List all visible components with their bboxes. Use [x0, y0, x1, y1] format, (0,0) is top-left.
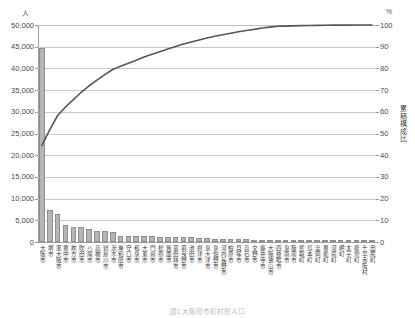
x-axis-label: 池田市 [188, 245, 194, 263]
x-axis-label: 東大阪市 [55, 245, 61, 269]
plot-area [38, 25, 376, 242]
x-axis-label: 吹田市 [78, 245, 84, 263]
x-axis-label: 阪南市 [290, 245, 296, 263]
right-axis-tick-mark [376, 242, 379, 243]
right-axis-tick-mark [376, 47, 379, 48]
x-axis-label: 松原市 [157, 245, 163, 263]
gridline [38, 242, 376, 243]
right-axis-tick-label: 100 [380, 21, 406, 30]
left-axis-tick-label: 45,000 [0, 42, 34, 51]
left-axis-tick-mark [35, 47, 38, 48]
left-axis-tick-label: 5,000 [0, 216, 34, 225]
x-axis-label: 高石市 [243, 245, 249, 263]
right-axis-tick-mark [376, 177, 379, 178]
left-axis-tick-label: 50,000 [0, 21, 34, 30]
x-axis-label: 枚方市 [70, 245, 76, 263]
left-axis-tick-mark [35, 242, 38, 243]
cumulative-line-series [38, 25, 376, 242]
x-axis-label: 忠岡町 [314, 245, 320, 263]
left-axis-tick-mark [35, 134, 38, 135]
x-axis-label: 摂津市 [196, 245, 202, 263]
x-axis-label: 泉大津市 [204, 245, 210, 269]
x-axis-label: 和泉市 [133, 245, 139, 263]
left-axis-tick-label: 40,000 [0, 64, 34, 73]
right-axis-tick-mark [376, 90, 379, 91]
right-axis-tick-label: 10 [380, 216, 406, 225]
x-axis-label: 貝塚市 [235, 245, 241, 263]
x-axis-label: 太子町 [345, 245, 351, 263]
left-axis-tick-mark [35, 199, 38, 200]
x-axis-label: 交野市 [251, 245, 257, 263]
right-axis-tick-label: 70 [380, 86, 406, 95]
x-axis-label: 河内長野市 [220, 245, 226, 275]
right-axis-tick-mark [376, 68, 379, 69]
x-axis-label: 堺市 [47, 245, 53, 257]
left-axis-tick-label: 35,000 [0, 86, 34, 95]
pareto-chart: 人 % 50,00045,00040,00035,00030,00025,000… [0, 0, 415, 318]
left-axis-tick-label: 20,000 [0, 151, 34, 160]
x-axis-label: 島本町 [306, 245, 312, 263]
left-axis-tick-mark [35, 90, 38, 91]
x-axis-label: 羽曳野市 [180, 245, 186, 269]
right-axis-tick-mark [376, 199, 379, 200]
right-axis-tick-label: 0 [380, 238, 406, 247]
right-axis-tick-mark [376, 155, 379, 156]
figure-caption: 図1 大阪府市町村別人口 [0, 306, 415, 316]
left-axis-tick-mark [35, 25, 38, 26]
x-axis-label: 大東市 [141, 245, 147, 263]
x-axis-label: 富田林市 [173, 245, 179, 269]
left-axis-tick-label: 25,000 [0, 129, 34, 138]
right-axis-tick-mark [376, 112, 379, 113]
x-axis-label: 高槻市 [94, 245, 100, 263]
x-axis-label: 四條畷市 [275, 245, 281, 269]
x-axis-label: 柏原市 [228, 245, 234, 263]
left-axis-tick-mark [35, 155, 38, 156]
x-axis-label: 藤井寺市 [259, 245, 265, 269]
x-axis-label: 千早赤阪村 [361, 245, 367, 275]
x-axis-label: 豊能町 [322, 245, 328, 263]
left-axis-tick-mark [35, 220, 38, 221]
x-axis-label: 豊中市 [63, 245, 69, 263]
right-axis-title: 累積構成比 [398, 105, 408, 143]
left-axis-tick-label: 0 [0, 238, 34, 247]
right-axis-tick-label: 40 [380, 151, 406, 160]
right-axis-tick-label: 90 [380, 42, 406, 51]
left-axis-tick-label: 30,000 [0, 107, 34, 116]
x-axis-label: 能勢町 [353, 245, 359, 263]
x-axis-label: 八尾市 [86, 245, 92, 263]
x-axis-label: 守口市 [125, 245, 131, 263]
x-axis-label: 泉佐野市 [212, 245, 218, 269]
x-axis-label: 門真市 [149, 245, 155, 263]
x-axis-label: 箕面市 [165, 245, 171, 263]
x-axis-label: 岸和田市 [118, 245, 124, 269]
right-axis-tick-mark [376, 25, 379, 26]
x-axis-label: 泉南市 [283, 245, 289, 263]
left-axis-tick-mark [35, 68, 38, 69]
left-axis-unit: 人 [22, 8, 29, 18]
left-axis-tick-label: 15,000 [0, 172, 34, 181]
right-axis-tick-label: 20 [380, 194, 406, 203]
x-axis-label: 河南町 [330, 245, 336, 263]
x-axis-label: 岬町 [338, 245, 344, 257]
left-axis-tick-mark [35, 112, 38, 113]
right-axis-tick-mark [376, 134, 379, 135]
x-axis-label: 茨木市 [110, 245, 116, 263]
right-axis-tick-mark [376, 220, 379, 221]
x-axis-label: 大阪狭山市 [267, 245, 273, 275]
left-axis-tick-mark [35, 177, 38, 178]
x-axis-label: 寝屋川市 [102, 245, 108, 269]
left-axis-tick-label: 10,000 [0, 194, 34, 203]
x-axis-label: 熊取町 [298, 245, 304, 263]
right-axis-tick-label: 80 [380, 64, 406, 73]
x-axis-label: 大阪市 [39, 245, 45, 263]
right-axis-tick-label: 30 [380, 172, 406, 181]
x-axis-label: 田尻町 [369, 245, 375, 263]
right-axis-unit: % [386, 8, 392, 15]
